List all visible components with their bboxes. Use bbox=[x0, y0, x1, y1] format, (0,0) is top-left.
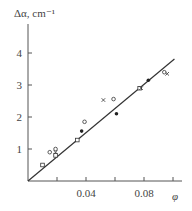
y-tick-label: 4 bbox=[17, 47, 23, 59]
axes bbox=[28, 24, 182, 181]
data-point-cross bbox=[165, 72, 169, 76]
x-axis-title: φ bbox=[172, 190, 178, 202]
fit-line bbox=[28, 59, 174, 181]
data-point-circle-open bbox=[112, 97, 116, 101]
y-ticks: 1234 bbox=[17, 47, 33, 155]
y-tick-label: 1 bbox=[17, 143, 23, 155]
data-point-circle-open bbox=[83, 120, 87, 124]
y-tick-label: 3 bbox=[17, 79, 23, 91]
scatter-chart: 0.040.08 1234 Δα, cm⁻¹ φ bbox=[0, 0, 192, 211]
data-point-circle-filled bbox=[80, 129, 84, 133]
data-point-circle-open bbox=[48, 150, 52, 154]
y-tick-label: 2 bbox=[17, 111, 23, 123]
data-point-square-open bbox=[76, 138, 80, 142]
data-point-circle-open bbox=[54, 147, 58, 151]
x-tick-label: 0.08 bbox=[134, 187, 154, 199]
x-ticks: 0.040.08 bbox=[57, 177, 173, 199]
data-point-square-open bbox=[41, 163, 45, 167]
data-point-circle-filled bbox=[115, 112, 119, 116]
y-axis-title: Δα, cm⁻¹ bbox=[14, 7, 55, 19]
x-tick-label: 0.04 bbox=[76, 187, 96, 199]
data-point-square-open bbox=[54, 154, 58, 158]
data-point-circle-filled bbox=[147, 78, 151, 82]
data-point-cross bbox=[102, 98, 106, 102]
data-points bbox=[41, 70, 169, 166]
